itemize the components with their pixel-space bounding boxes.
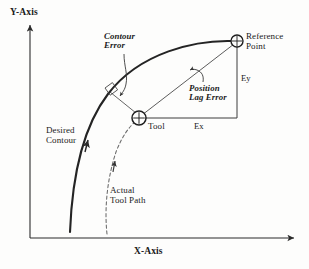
x-axis-label: X-Axis: [134, 246, 163, 256]
y-axis-label: Y-Axis: [10, 7, 38, 17]
diagram-canvas: Y-Axis X-Axis Contour Error Reference Po…: [0, 0, 309, 269]
contour-error-segment: [110, 92, 136, 113]
tool-label: Tool: [148, 122, 165, 132]
ex-label: Ex: [194, 122, 204, 131]
contour-error-label: Contour Error: [104, 32, 135, 51]
actual-tool-path-curve: [106, 122, 135, 234]
actual-tool-path-label: Actual Tool Path: [110, 186, 146, 205]
position-lag-error-leader: [190, 69, 203, 82]
desired-contour-label: Desired Contour: [46, 126, 76, 145]
desired-contour-direction-arrow: [85, 140, 88, 152]
desired-contour-curve: [70, 41, 232, 232]
position-lag-hypotenuse: [142, 44, 234, 115]
position-lag-error-label: Position Lag Error: [189, 84, 227, 103]
position-lag-triangle: [142, 44, 237, 118]
tool-marker[interactable]: [132, 111, 146, 125]
contour-error-annotation: [105, 54, 136, 113]
ey-label: Ey: [241, 74, 251, 83]
reference-point-marker[interactable]: [231, 35, 243, 47]
reference-point-label: Reference Point: [246, 32, 283, 51]
